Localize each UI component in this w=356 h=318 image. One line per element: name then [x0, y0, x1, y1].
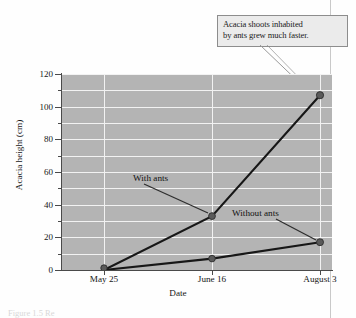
- y-axis-tick: [55, 139, 61, 140]
- series-label-with-ants: With ants: [133, 173, 168, 183]
- annotation-callout-line-2: by ants grew much faster.: [223, 30, 343, 41]
- x-axis-title: Date: [0, 288, 356, 298]
- series-lines: [62, 74, 332, 270]
- y-axis-tick-label: 80: [27, 134, 53, 144]
- x-axis-tick-label: August 3: [285, 274, 355, 284]
- without-ants-leader-line: [276, 219, 316, 240]
- y-axis-tick: [55, 270, 61, 271]
- y-axis-minor-tick: [58, 156, 61, 157]
- y-axis-minor-tick: [58, 123, 61, 124]
- y-axis-tick-label: 120: [27, 69, 53, 79]
- plot-area: [62, 74, 332, 270]
- y-axis-minor-tick: [58, 221, 61, 222]
- annotation-callout-box: Acacia shoots inhabited by ants grew muc…: [217, 15, 348, 47]
- series-label-without-ants: Without ants: [232, 208, 279, 218]
- y-axis-tick: [55, 74, 61, 75]
- y-axis-minor-tick: [58, 90, 61, 91]
- y-axis-tick: [55, 205, 61, 206]
- figure-root: Acacia shoots inhabited by ants grew muc…: [0, 0, 356, 318]
- y-axis-minor-tick: [58, 254, 61, 255]
- data-point-marker: [209, 255, 216, 262]
- y-axis-line: [61, 73, 62, 271]
- y-axis-minor-tick: [58, 188, 61, 189]
- y-axis-tick-label: 100: [27, 102, 53, 112]
- y-axis-tick: [55, 237, 61, 238]
- y-axis-tick-label: 60: [27, 167, 53, 177]
- y-axis-tick-label: 40: [27, 200, 53, 210]
- figure-caption: Figure 1.5 Re: [8, 308, 55, 318]
- y-axis-tick-label: 0: [27, 265, 53, 275]
- with-ants-leader-line: [144, 184, 208, 213]
- data-point-marker: [209, 213, 216, 220]
- y-axis-tick-label: 20: [27, 232, 53, 242]
- y-axis-tick: [55, 107, 61, 108]
- y-axis-title: Acacia height (cm): [14, 85, 24, 225]
- x-axis-tick-label: May 25: [69, 274, 139, 284]
- x-axis-tick-label: June 16: [177, 274, 247, 284]
- y-axis-tick: [55, 172, 61, 173]
- data-point-marker: [317, 239, 324, 246]
- data-point-marker: [316, 92, 323, 99]
- annotation-callout-line-1: Acacia shoots inhabited: [223, 19, 343, 30]
- x-axis-line: [61, 270, 333, 271]
